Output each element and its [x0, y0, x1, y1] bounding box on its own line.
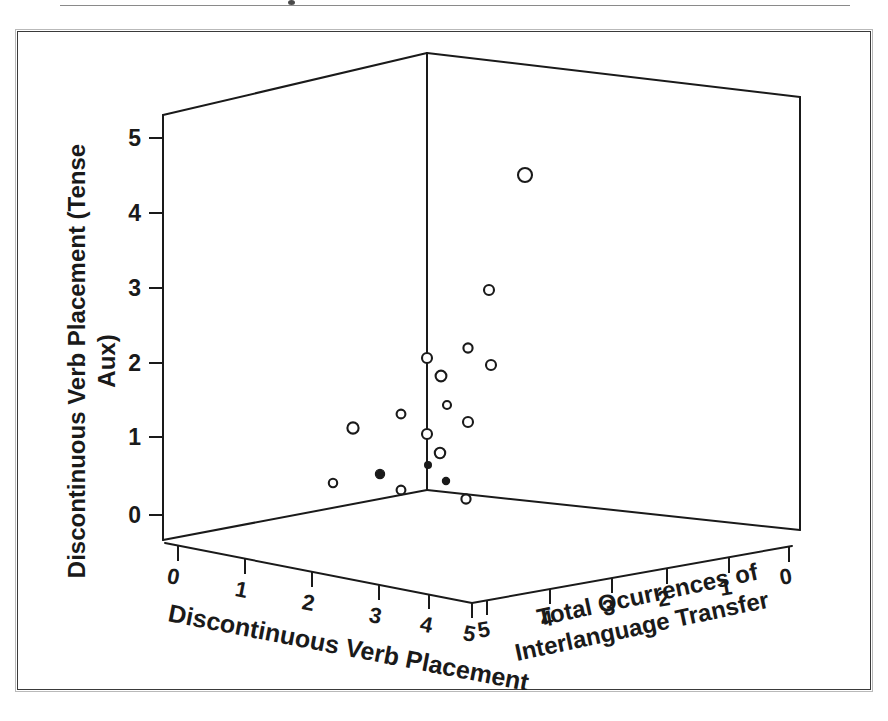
- scatter-3d-plot: 5 4 3 2 1 0 0 1 2 3 4 5: [17, 31, 871, 690]
- y-axis-title-line2: Aux): [93, 334, 120, 387]
- data-point: [375, 469, 384, 478]
- data-point: [347, 422, 358, 433]
- header-rule: [60, 5, 850, 6]
- data-point: [518, 168, 532, 182]
- x-axis-title: Discontinuous Verb Placement: [166, 598, 532, 690]
- data-point: [463, 417, 473, 427]
- data-point: [442, 477, 449, 484]
- data-point: [436, 371, 447, 382]
- x-tick-0: 0: [165, 563, 182, 590]
- data-point-layer: [329, 168, 532, 504]
- x-tick-1: 1: [233, 576, 250, 603]
- z-tick-0: 0: [777, 563, 793, 590]
- data-point: [443, 401, 451, 409]
- data-point: [461, 494, 470, 503]
- x-tick-2: 2: [300, 589, 317, 616]
- y-tick-2: 2: [128, 350, 141, 376]
- x-axis-rail: [165, 543, 472, 603]
- y-tick-0: 0: [128, 502, 141, 528]
- x-axis-ticks: [178, 546, 472, 618]
- x-tick-5: 5: [461, 620, 478, 647]
- y-axis-title-line1: Discontinuous Verb Placement (Tense: [63, 144, 90, 578]
- data-point: [397, 410, 406, 419]
- frame-floor-right-edge: [427, 490, 800, 530]
- data-point: [397, 486, 406, 495]
- x-tick-3: 3: [367, 602, 384, 629]
- data-point: [422, 353, 432, 363]
- frame-top-left-edge: [163, 53, 427, 115]
- z-tick-5: 5: [475, 616, 491, 643]
- y-tick-4: 4: [128, 200, 141, 226]
- y-axis-ticks: [149, 138, 163, 515]
- data-point: [484, 285, 494, 295]
- frame-floor-left-edge: [163, 490, 427, 540]
- x-tick-4: 4: [418, 611, 436, 638]
- data-point: [329, 479, 337, 487]
- frame-top-right-edge: [427, 53, 800, 97]
- data-point: [422, 429, 432, 439]
- y-tick-1: 1: [128, 424, 141, 450]
- y-tick-5: 5: [128, 125, 141, 151]
- data-point: [425, 462, 432, 469]
- data-point: [435, 448, 445, 458]
- figure-page: 5 4 3 2 1 0 0 1 2 3 4 5: [0, 0, 888, 721]
- y-tick-3: 3: [128, 275, 141, 301]
- cube-frame: [163, 53, 800, 603]
- y-axis-ticklabels: 5 4 3 2 1 0: [128, 125, 141, 528]
- page-artifact-mark: [288, 0, 295, 5]
- data-point: [463, 343, 472, 352]
- data-point: [486, 360, 496, 370]
